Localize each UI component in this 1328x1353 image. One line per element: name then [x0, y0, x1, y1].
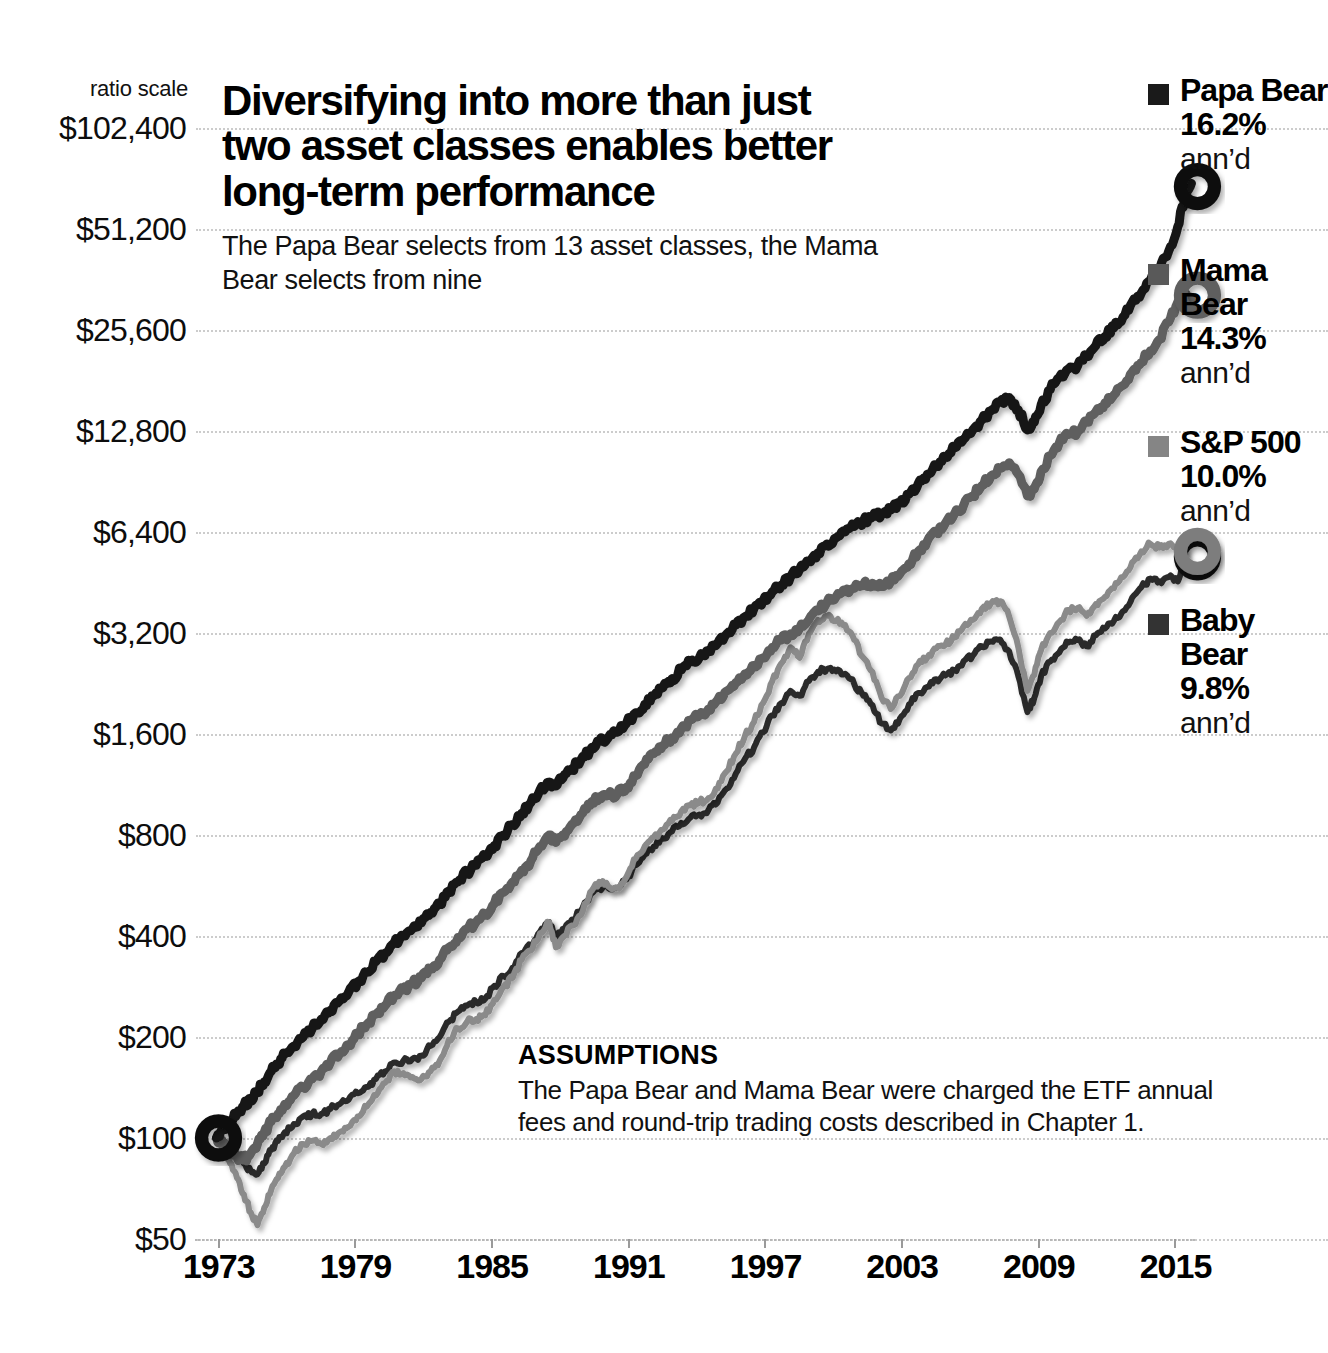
- legend-series-name: Papa Bear: [1180, 74, 1328, 108]
- legend-text: S&P 50010.0%ann’d: [1180, 426, 1328, 527]
- legend-text: Mama Bear14.3%ann’d: [1180, 254, 1328, 389]
- chart-page: ratio scale $102,400$51,200$25,600$12,80…: [0, 0, 1328, 1353]
- legend-series-value: 16.2%: [1180, 108, 1328, 142]
- x-axis-tick-label: 2009: [1003, 1247, 1075, 1286]
- x-axis-tick-label: 1973: [183, 1247, 255, 1286]
- legend-series-value: 10.0%: [1180, 460, 1328, 494]
- legend-swatch-icon: [1148, 436, 1169, 457]
- x-axis-tick-label: 1991: [593, 1247, 665, 1286]
- page-title: Diversifying into more than just two ass…: [222, 78, 882, 214]
- series-line-papa-bear: [217, 183, 1192, 1138]
- x-axis-tick-label: 1985: [456, 1247, 528, 1286]
- x-axis-tick-label: 2003: [866, 1247, 938, 1286]
- legend-swatch-icon: [1148, 614, 1169, 635]
- title-block: Diversifying into more than just two ass…: [222, 78, 882, 297]
- legend-series-name: Mama Bear: [1180, 254, 1328, 322]
- x-axis-tick-label: 1979: [320, 1247, 392, 1286]
- legend-swatch-icon: [1148, 264, 1169, 285]
- legend-swatch-icon: [1148, 84, 1169, 105]
- chart-subtitle: The Papa Bear selects from 13 asset clas…: [222, 230, 882, 297]
- legend-series-unit: ann’d: [1180, 494, 1328, 527]
- legend-series-name: Baby Bear: [1180, 604, 1328, 672]
- assumptions-body: The Papa Bear and Mama Bear were charged…: [518, 1075, 1258, 1138]
- x-axis-tick-label: 2015: [1140, 1247, 1212, 1286]
- legend-series-name: S&P 500: [1180, 426, 1328, 460]
- legend-series-unit: ann’d: [1180, 706, 1328, 739]
- x-axis-rule: [195, 1239, 1195, 1241]
- legend-series-unit: ann’d: [1180, 356, 1328, 389]
- assumptions-block: ASSUMPTIONS The Papa Bear and Mama Bear …: [518, 1040, 1258, 1138]
- series-line-mama-bear: [217, 293, 1192, 1161]
- end-marker-s-p-500: [1180, 534, 1214, 568]
- legend-series-value: 14.3%: [1180, 322, 1328, 356]
- assumptions-heading: ASSUMPTIONS: [518, 1040, 1258, 1071]
- x-axis-tick-label: 1997: [730, 1247, 802, 1286]
- legend-text: Papa Bear16.2%ann’d: [1180, 74, 1328, 175]
- legend-series-value: 9.8%: [1180, 672, 1328, 706]
- legend-series-unit: ann’d: [1180, 142, 1328, 175]
- legend-text: Baby Bear9.8%ann’d: [1180, 604, 1328, 739]
